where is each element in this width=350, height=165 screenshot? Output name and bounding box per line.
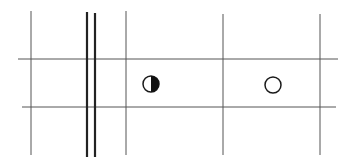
- symbols: [143, 76, 281, 93]
- open-circle-icon: [265, 77, 281, 93]
- half-filled-circle-icon: [143, 76, 159, 92]
- horizontal-lines: [18, 59, 338, 107]
- grid-diagram: [0, 0, 350, 165]
